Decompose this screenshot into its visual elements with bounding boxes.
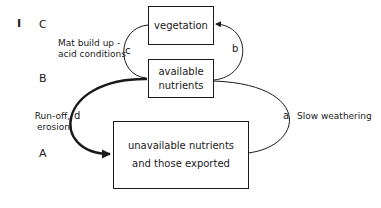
box-available-line2: nutrients xyxy=(158,79,203,93)
box-vegetation: vegetation xyxy=(148,6,214,45)
box-available-nutrients: available nutrients xyxy=(148,59,214,98)
level-label-c: C xyxy=(39,18,47,31)
box-unavailable-line1: unavailable nutrients xyxy=(128,137,234,155)
panel-label: I xyxy=(17,17,21,30)
arrow-a-label: Slow weathering xyxy=(297,111,372,122)
arrow-c-label-line2: acid conditions xyxy=(58,49,126,60)
box-vegetation-text: vegetation xyxy=(154,19,208,33)
box-unavailable-nutrients: unavailable nutrients and those exported xyxy=(113,121,249,189)
arrow-c-label: Mat build up - acid conditions xyxy=(58,38,126,60)
box-available-line1: available xyxy=(158,65,203,79)
arrow-letter-b: b xyxy=(232,43,238,54)
arrow-letter-d: d xyxy=(74,110,80,121)
arrow-b xyxy=(214,24,243,80)
arrow-d-label-line1: Run-off, xyxy=(32,111,70,122)
level-label-a: A xyxy=(39,147,47,160)
level-label-b: B xyxy=(39,72,47,85)
arrow-letter-a: a xyxy=(283,110,289,121)
arrow-c-label-line1: Mat build up - xyxy=(58,38,126,49)
arrow-d-label: Run-off, erosion xyxy=(32,111,70,133)
arrow-d-label-line2: erosion xyxy=(32,122,70,133)
box-unavailable-line2: and those exported xyxy=(132,155,230,173)
